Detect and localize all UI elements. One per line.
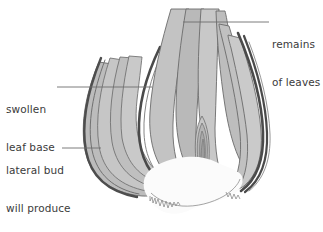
label-lateral-bud-line2: will produce (6, 202, 71, 215)
basal-plate-group (144, 157, 243, 214)
bulb-diagram: remains of leaves swollen leaf base late… (0, 0, 323, 232)
label-swollen-leaf-base-line1: swollen (6, 103, 55, 116)
label-remains-of-leaves-line2: of leaves (272, 76, 320, 89)
label-remains-of-leaves: remains of leaves (272, 13, 320, 113)
label-lateral-bud-line1: lateral bud (6, 164, 71, 177)
label-lateral-bud: lateral bud will produce new plant (6, 139, 71, 232)
label-remains-of-leaves-line1: remains (272, 38, 320, 51)
basal-plate (144, 157, 243, 214)
